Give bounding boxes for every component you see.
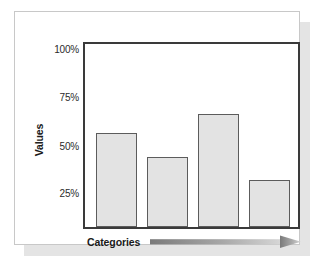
y-tick-label: 100%: [54, 45, 79, 55]
chart-figure: 100% 75% 50% 25% Values Categories: [0, 0, 319, 277]
bar-series-item: [198, 114, 239, 227]
x-axis-title: Categories: [87, 236, 140, 248]
y-axis-title: Values: [32, 116, 46, 164]
y-axis-title-text: Values: [33, 124, 45, 157]
bar-series-item: [96, 133, 137, 227]
y-tick-label: 25%: [60, 189, 79, 199]
bar-series-item: [249, 180, 290, 227]
plot-area: [83, 42, 300, 229]
chart-card: 100% 75% 50% 25% Values Categories: [14, 11, 300, 245]
y-tick-label: 50%: [60, 142, 79, 152]
bar-series-item: [147, 157, 188, 227]
y-tick-label: 75%: [60, 93, 79, 103]
bars-container: [85, 44, 298, 227]
arrow-right-icon: [150, 234, 301, 250]
x-axis-row: Categories: [83, 234, 301, 252]
